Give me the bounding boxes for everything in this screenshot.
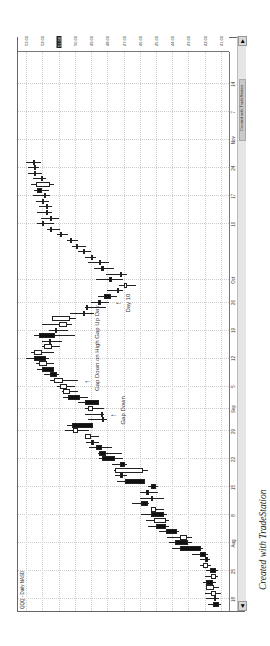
candle-body	[141, 501, 147, 506]
date-tick-label: 18	[231, 597, 236, 602]
candle-body	[96, 445, 102, 450]
candle-body	[54, 378, 64, 383]
candle-body	[206, 585, 214, 590]
date-tick-label: 22	[231, 457, 236, 462]
candle-wick	[206, 598, 219, 599]
candle-body	[72, 423, 93, 428]
candle-wick	[49, 330, 68, 331]
date-tick-label: 17	[231, 194, 236, 199]
candle-body	[44, 193, 46, 198]
candle-body	[37, 188, 42, 193]
candle-body	[120, 272, 122, 277]
candle-body	[42, 221, 44, 226]
candle-body	[85, 400, 100, 405]
annotation-label: Gap Down	[120, 396, 126, 424]
candle-body	[83, 311, 85, 316]
grid-line	[18, 358, 229, 359]
grid-line	[75, 52, 76, 611]
candle-body	[60, 384, 66, 389]
candle-body	[36, 182, 51, 187]
candle-body	[49, 339, 51, 344]
candle-body	[109, 277, 112, 282]
price-axis: 53.0052.0051.0050.0049.0048.0047.0046.00…	[18, 35, 229, 52]
candle-wick	[33, 178, 46, 179]
annotation-arrow-icon: ↑	[115, 302, 123, 306]
candle-body	[73, 428, 78, 433]
candle-body	[101, 412, 103, 417]
candle-wick	[57, 234, 68, 235]
candle-body	[206, 580, 212, 585]
price-tick-label: 52.00	[40, 36, 45, 46]
candle-body	[39, 361, 47, 366]
candle-body	[46, 204, 48, 209]
candle-wick	[106, 274, 127, 275]
price-tick-label: 53.00	[24, 36, 29, 46]
grid-line	[18, 514, 229, 515]
candle-body	[52, 316, 70, 321]
grid-line	[221, 52, 222, 611]
candle-body	[98, 300, 101, 305]
candle-body	[86, 305, 88, 310]
candle-wick	[94, 268, 113, 269]
candle-body	[83, 249, 85, 254]
candle-wick	[37, 223, 53, 224]
candle-wick	[47, 229, 60, 230]
candle-body	[99, 451, 105, 456]
candle-body	[175, 540, 188, 545]
date-tick-label: 26	[231, 300, 236, 305]
price-tick-label: 49.00	[89, 36, 94, 46]
date-tick-label: 24	[231, 166, 236, 171]
candle-body	[55, 328, 57, 333]
grid-line	[124, 52, 125, 611]
candle-body	[102, 417, 104, 422]
date-tick-label: 25	[231, 569, 236, 574]
candle-body	[85, 434, 91, 439]
grid-line	[18, 598, 229, 599]
candle-body	[180, 535, 186, 540]
candle-body	[41, 176, 43, 181]
grid-line	[18, 486, 229, 487]
candle-body	[34, 165, 36, 170]
grid-line	[140, 52, 141, 611]
candle-body	[115, 468, 143, 473]
candle-body	[59, 322, 67, 327]
candle-body	[151, 496, 153, 501]
candle-wick	[72, 246, 87, 247]
candlestick-chart: QQQ - Daily NASD ↑Gap Down↑Gap Down on H…	[17, 37, 245, 612]
candle-body	[42, 367, 53, 372]
candle-wick	[67, 240, 78, 241]
candle-body	[104, 294, 110, 299]
candle-body	[76, 244, 78, 249]
candle-body	[200, 552, 206, 557]
date-tick-label: 14	[231, 82, 236, 87]
grid-line	[26, 52, 27, 611]
price-tick-label: 51.00	[56, 36, 61, 48]
candle-body	[70, 238, 72, 243]
date-tick-label: Sep	[231, 405, 236, 413]
price-tick-label: 47.00	[121, 36, 126, 46]
candle-body	[42, 199, 44, 204]
grid-line	[18, 386, 229, 387]
candle-body	[102, 456, 115, 461]
candle-body	[151, 507, 156, 512]
candle-body	[120, 462, 125, 467]
grid-line	[18, 458, 229, 459]
horizontal-scrollbar[interactable]: ◀ Created with TradeStation ▶	[237, 36, 246, 611]
candle-wick	[42, 324, 71, 325]
grid-line	[18, 139, 229, 140]
grid-line	[18, 430, 229, 431]
candle-body	[213, 602, 219, 607]
candle-body	[211, 574, 216, 579]
grid-line	[91, 52, 92, 611]
candle-body	[39, 333, 55, 338]
candle-body	[146, 490, 149, 495]
date-tick-label: 5	[231, 385, 236, 388]
candle-body	[63, 389, 69, 394]
scroll-right-button[interactable]: ▶	[238, 36, 247, 46]
grid-line	[42, 52, 43, 611]
price-tick-label: 42.00	[202, 36, 207, 46]
candle-body	[151, 484, 156, 489]
candle-body	[50, 227, 52, 232]
scroll-left-button[interactable]: ◀	[238, 601, 247, 611]
grid-line	[18, 167, 229, 168]
